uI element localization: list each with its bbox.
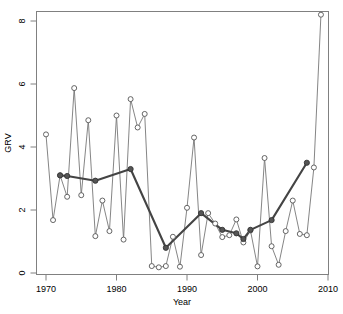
y-axis-title: GRV [3, 133, 13, 152]
data-point-annual [213, 221, 218, 226]
y-tick-label: 4 [17, 144, 27, 149]
data-point-annual [177, 264, 182, 269]
data-point-annual [192, 135, 197, 140]
x-tick-label: 2000 [247, 284, 267, 294]
data-point-annual [156, 265, 161, 270]
data-point-smoothed [199, 211, 204, 216]
data-point-smoothed [58, 173, 63, 178]
data-point-annual [255, 264, 260, 269]
x-tick-label: 1970 [36, 284, 56, 294]
data-point-annual [93, 234, 98, 239]
y-tick-label: 2 [17, 207, 27, 212]
data-point-annual [185, 205, 190, 210]
data-point-annual [170, 234, 175, 239]
data-point-annual [121, 237, 126, 242]
x-tick-label: 2010 [318, 284, 338, 294]
data-point-annual [149, 264, 154, 269]
data-point-annual [262, 156, 267, 161]
data-point-annual [79, 193, 84, 198]
data-point-annual [107, 229, 112, 234]
x-tick-label: 1990 [177, 284, 197, 294]
data-point-annual [135, 125, 140, 130]
data-point-smoothed [304, 160, 309, 165]
data-point-annual [227, 233, 232, 238]
data-point-smoothed [163, 245, 168, 250]
data-point-annual [269, 244, 274, 249]
x-tick-label: 1980 [106, 284, 126, 294]
data-point-annual [297, 231, 302, 236]
chart-container: 19701980199020002010 02468 Year GRV [0, 0, 343, 314]
data-point-smoothed [234, 231, 239, 236]
data-point-smoothed [269, 217, 274, 222]
data-point-smoothed [93, 178, 98, 183]
data-point-annual [276, 262, 281, 267]
data-point-annual [51, 218, 56, 223]
data-point-annual [114, 113, 119, 118]
data-point-annual [290, 198, 295, 203]
data-point-annual [128, 97, 133, 102]
data-point-smoothed [248, 227, 253, 232]
data-point-annual [234, 217, 239, 222]
data-point-annual [65, 194, 70, 199]
y-tick-label: 6 [17, 81, 27, 86]
data-point-annual [163, 264, 168, 269]
data-point-annual [72, 86, 77, 91]
data-point-annual [311, 165, 316, 170]
data-point-smoothed [65, 173, 70, 178]
data-point-annual [100, 198, 105, 203]
data-point-annual [206, 211, 211, 216]
data-point-annual [220, 235, 225, 240]
data-point-smoothed [220, 227, 225, 232]
data-point-smoothed [241, 236, 246, 241]
data-point-annual [304, 233, 309, 238]
y-tick-label: 0 [17, 270, 27, 275]
data-point-annual [318, 12, 323, 17]
y-tick-label: 8 [17, 18, 27, 23]
grv-year-line-chart: 19701980199020002010 02468 Year GRV [0, 0, 343, 314]
data-point-annual [142, 111, 147, 116]
data-point-annual [44, 132, 49, 137]
x-axis-title: Year [173, 297, 191, 307]
data-point-annual [283, 229, 288, 234]
chart-background [0, 0, 343, 314]
data-point-smoothed [128, 166, 133, 171]
data-point-annual [86, 118, 91, 123]
data-point-annual [199, 253, 204, 258]
